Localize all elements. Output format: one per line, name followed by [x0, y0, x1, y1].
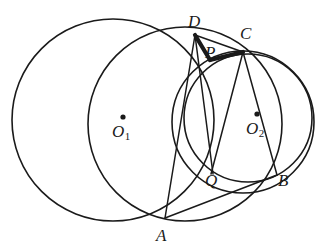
label-center-o1: O1	[112, 123, 130, 142]
label-center-o1-text: O	[112, 122, 124, 141]
label-point-b: B	[278, 172, 288, 189]
label-point-p: P	[205, 44, 215, 61]
circles-group	[12, 19, 314, 221]
label-center-o2-text: O	[246, 119, 258, 138]
center-dot-o1	[120, 114, 125, 119]
geometry-figure: D C P Q A B O1 O2	[0, 0, 333, 252]
label-center-o2-subscript: 2	[259, 127, 265, 139]
circle-o2	[184, 54, 312, 182]
label-point-q: Q	[205, 172, 217, 189]
label-point-d: D	[188, 13, 200, 30]
label-center-o2: O2	[246, 120, 264, 139]
segment-d-a	[165, 35, 195, 218]
circle-right-outer	[172, 51, 314, 193]
label-center-o1-subscript: 1	[125, 130, 131, 142]
geometry-canvas	[0, 0, 333, 252]
label-point-a: A	[156, 227, 166, 244]
center-dots-group	[120, 111, 259, 119]
segment-a-b	[165, 175, 277, 218]
label-point-c: C	[240, 25, 251, 42]
center-dot-o2	[254, 111, 259, 116]
segment-c-q	[211, 52, 243, 174]
segment-c-b	[243, 52, 277, 175]
